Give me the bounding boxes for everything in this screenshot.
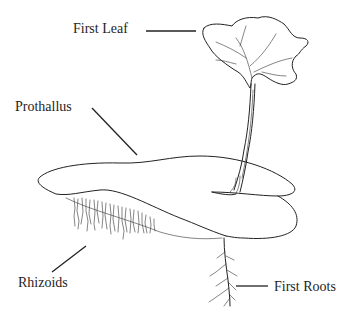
first-roots: [209, 238, 237, 306]
prothallus-shape: [38, 156, 297, 239]
label-first-roots: First Roots: [274, 280, 336, 294]
first-leaf-shape: [203, 17, 308, 88]
leaf-stem: [230, 84, 255, 193]
label-first-leaf: First Leaf: [73, 22, 128, 36]
rhizoids-leader-line: [52, 246, 86, 272]
rhizoids-cluster: [74, 198, 155, 239]
fern-illustration: [0, 0, 347, 320]
label-prothallus: Prothallus: [15, 100, 72, 114]
fern-prothallus-diagram: First Leaf Prothallus Rhizoids First Roo…: [0, 0, 347, 320]
label-rhizoids: Rhizoids: [18, 276, 68, 290]
prothallus-leader-line: [92, 108, 137, 155]
